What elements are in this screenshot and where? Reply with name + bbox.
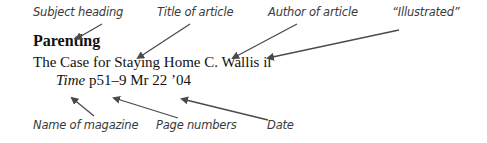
arrow-magazine bbox=[72, 98, 94, 116]
arrow-illustrated bbox=[268, 30, 399, 58]
annotation-arrows bbox=[0, 0, 487, 143]
arrow-date bbox=[182, 99, 268, 120]
arrow-pages bbox=[114, 98, 178, 118]
arrow-title bbox=[138, 24, 190, 58]
arrow-author bbox=[233, 24, 297, 58]
arrow-subject-heading bbox=[76, 24, 102, 39]
